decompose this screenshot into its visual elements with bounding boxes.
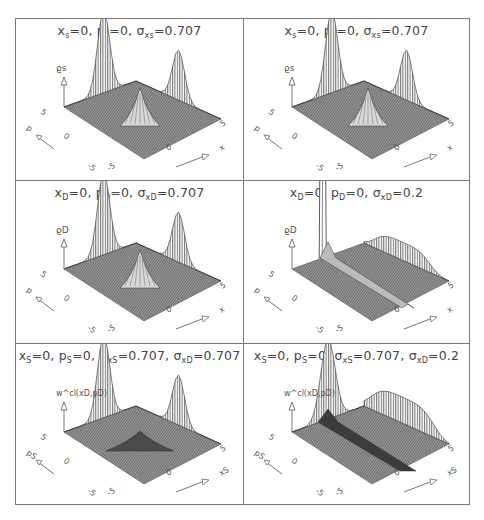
p-axis-label: p xyxy=(253,285,262,295)
x-tick-right: 5 xyxy=(219,443,228,453)
p-tick-top: 5 xyxy=(39,269,48,279)
x-tick-left: -5 xyxy=(106,161,117,173)
p-tick-bottom: -5 xyxy=(86,323,98,335)
x-tick-right: 5 xyxy=(219,118,228,128)
p-tick-bottom: -5 xyxy=(86,161,98,173)
x-axis-label: x xyxy=(218,304,227,314)
p-tick-mid: 0 xyxy=(290,293,299,303)
z-axis-label: w^cl(xD,pD) xyxy=(284,389,335,398)
panel-top-left: xs=0, ps=0, σxs=0.707ϱs50-5p-505x xyxy=(16,19,243,181)
x-tick-left: -5 xyxy=(334,161,345,173)
x-axis-label: xS xyxy=(446,465,459,478)
p-axis-label: pS xyxy=(25,448,38,461)
x-axis-label: x xyxy=(446,304,455,314)
figure-grid: xs=0, ps=0, σxs=0.707ϱs50-5p-505xxs=0, p… xyxy=(15,18,470,505)
panel-middle-right: xD=0, pD=0, σxD=0.2ϱD50-5p-505x xyxy=(244,181,469,343)
panel-bottom-left: xS=0, pS=0, σxS=0.707, σxD=0.707w^cl(xD,… xyxy=(16,344,243,506)
p-tick-bottom: -5 xyxy=(314,486,326,498)
x-axis-label: x xyxy=(218,142,227,152)
surface-plot: ϱs50-5p-505x xyxy=(16,19,243,181)
surface-plot: w^cl(xD,pD)50-5pS-505xS xyxy=(16,344,243,506)
x-tick-left: -5 xyxy=(334,323,345,335)
p-axis-label: p xyxy=(25,285,34,295)
p-tick-top: 5 xyxy=(267,107,276,117)
p-tick-mid: 0 xyxy=(290,456,299,466)
p-tick-mid: 0 xyxy=(62,131,71,141)
p-tick-mid: 0 xyxy=(62,293,71,303)
z-axis-label: ϱD xyxy=(56,225,69,235)
p-axis-label: p xyxy=(253,123,262,133)
x-tick-right: 5 xyxy=(219,280,228,290)
surface-plot: ϱD50-5p-505x xyxy=(16,181,243,343)
x-tick-left: -5 xyxy=(334,486,345,498)
z-axis-label: ϱs xyxy=(56,63,67,73)
x-axis-label: x xyxy=(446,142,455,152)
z-axis-label: ϱD xyxy=(284,225,297,235)
p-tick-mid: 0 xyxy=(62,456,71,466)
panel-bottom-right: xS=0, pS=0, σxS=0.707, σxD=0.2w^cl(xD,pD… xyxy=(244,344,469,506)
z-axis-label: w^cl(xD,pD) xyxy=(56,389,107,398)
p-tick-mid: 0 xyxy=(290,131,299,141)
p-axis-label: p xyxy=(25,123,34,133)
x-tick-right: 5 xyxy=(447,118,456,128)
x-tick-left: -5 xyxy=(106,323,117,335)
surface-plot: ϱs50-5p-505x xyxy=(244,19,471,181)
surface-plot: w^cl(xD,pD)50-5pS-505xS xyxy=(244,344,471,506)
p-tick-bottom: -5 xyxy=(314,161,326,173)
p-tick-bottom: -5 xyxy=(314,323,326,335)
x-axis-label: xS xyxy=(218,465,231,478)
x-tick-left: -5 xyxy=(106,486,117,498)
surface-plot: ϱD50-5p-505x xyxy=(244,181,471,343)
z-axis-label: ϱs xyxy=(284,63,295,73)
p-tick-top: 5 xyxy=(267,432,276,442)
x-tick-right: 5 xyxy=(447,443,456,453)
panel-middle-left: xD=0, pD=0, σxD=0.707ϱD50-5p-505x xyxy=(16,181,243,343)
p-tick-top: 5 xyxy=(39,432,48,442)
p-axis-label: pS xyxy=(253,448,266,461)
p-tick-top: 5 xyxy=(267,269,276,279)
x-tick-right: 5 xyxy=(447,280,456,290)
p-tick-bottom: -5 xyxy=(86,486,98,498)
p-tick-top: 5 xyxy=(39,107,48,117)
panel-top-right: xs=0, ps=0, σxs=0.707ϱs50-5p-505x xyxy=(244,19,469,181)
